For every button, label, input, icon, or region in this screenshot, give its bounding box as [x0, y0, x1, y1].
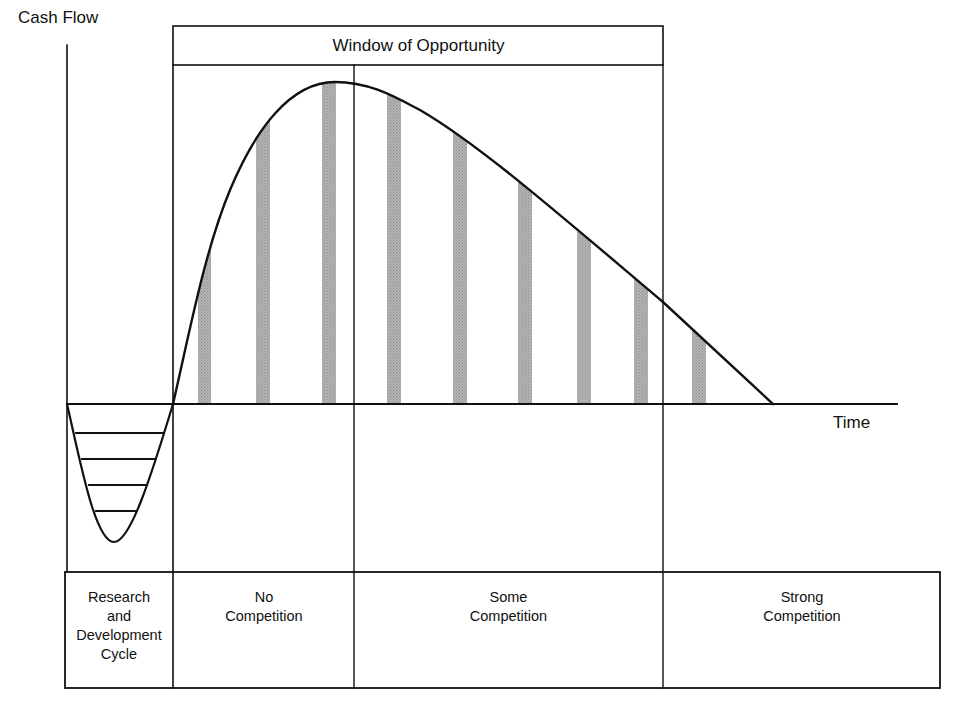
bar	[518, 60, 532, 404]
bar	[322, 60, 336, 404]
window-of-opportunity-label: Window of Opportunity	[174, 27, 663, 65]
bar	[453, 60, 467, 404]
shaded-bars	[198, 60, 706, 404]
phase-no-competition: No Competition	[174, 588, 354, 626]
rd-dip-curve	[67, 404, 173, 542]
bar	[256, 60, 270, 404]
phase-research-development: Research and Development Cycle	[66, 588, 172, 664]
phase-some-competition: Some Competition	[355, 588, 662, 626]
phase-strong-competition: Strong Competition	[664, 588, 940, 626]
x-axis-label: Time	[833, 413, 870, 433]
bar	[692, 60, 706, 404]
bar	[198, 60, 211, 404]
y-axis-label: Cash Flow	[18, 8, 98, 28]
bar	[387, 60, 401, 404]
bar	[634, 60, 648, 404]
